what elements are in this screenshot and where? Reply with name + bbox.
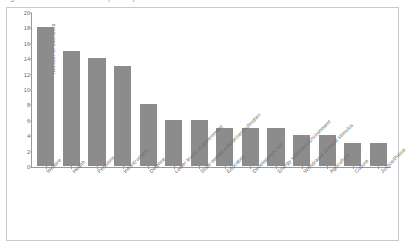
- bar-slot: [340, 13, 366, 166]
- bar-slot: [161, 13, 187, 166]
- y-axis-tick-mark: [30, 105, 32, 106]
- bar[interactable]: [63, 51, 80, 167]
- y-axis-tick-mark: [30, 43, 32, 44]
- bar-slot: [59, 13, 85, 166]
- bar-slot: [110, 13, 136, 166]
- y-axis-tick-mark: [30, 59, 32, 60]
- bar[interactable]: [370, 143, 387, 166]
- bar[interactable]: [88, 58, 105, 166]
- y-axis-tick-mark: [30, 13, 32, 14]
- bar-slot: [366, 13, 392, 166]
- bar-slot: [135, 13, 161, 166]
- bar-slot: [84, 13, 110, 166]
- y-axis-tick-mark: [30, 90, 32, 91]
- bar[interactable]: [37, 27, 54, 166]
- bar[interactable]: [165, 120, 182, 166]
- y-axis-tick-mark: [30, 28, 32, 29]
- y-axis-tick-mark: [30, 74, 32, 75]
- y-axis-tick-mark: [30, 167, 32, 168]
- bar[interactable]: [242, 128, 259, 167]
- bar-slot: [33, 13, 59, 166]
- plot-area: 02468101214161820: [31, 13, 391, 168]
- y-axis-tick-mark: [30, 151, 32, 152]
- figure-container: Figure 2.1. Fiscal consolidation plans b…: [0, 0, 407, 249]
- y-axis-tick-mark: [30, 136, 32, 137]
- figure-caption-text: Figure 2.1. Fiscal consolidation plans b…: [4, 0, 218, 2]
- bar-slot: [238, 13, 264, 166]
- chart-frame: Number of countries 02468101214161820 We…: [6, 7, 399, 241]
- bar[interactable]: [114, 66, 131, 166]
- x-axis-labels: WelfareHealthPensionsInfrastructureDefen…: [31, 170, 391, 248]
- y-axis-tick-mark: [30, 120, 32, 121]
- figure-caption-cropped: Figure 2.1. Fiscal consolidation plans b…: [0, 0, 407, 6]
